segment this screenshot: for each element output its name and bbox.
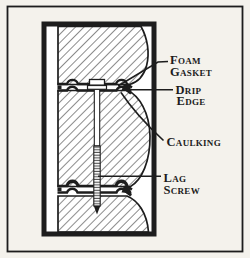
foam-gasket-label-line2: Gasket bbox=[170, 65, 212, 79]
log-sections bbox=[58, 27, 150, 233]
scanned-figure-page: Foam Gasket Drip Edge Caulking Lag Screw bbox=[0, 0, 250, 258]
upper-joint-left-caulk bbox=[58, 86, 62, 90]
log-bottom bbox=[58, 196, 149, 232]
construction-detail-diagram: Foam Gasket Drip Edge Caulking Lag Screw bbox=[0, 0, 250, 258]
caulking-label: Caulking bbox=[167, 135, 221, 149]
drip-edge-label: Drip Edge bbox=[176, 83, 206, 109]
log-middle bbox=[58, 91, 150, 187]
lower-joint-left-caulk bbox=[58, 188, 62, 192]
lag-screw-label-line2: Screw bbox=[164, 183, 200, 197]
lag-screw-shank bbox=[94, 89, 99, 146]
foam-gasket-strip bbox=[90, 80, 105, 86]
drip-edge-label-line2: Edge bbox=[177, 94, 206, 108]
lag-screw-washer bbox=[88, 86, 107, 90]
